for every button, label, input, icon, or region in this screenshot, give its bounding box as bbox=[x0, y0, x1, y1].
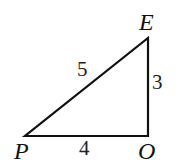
vertex-label-P: P bbox=[13, 138, 29, 164]
vertex-label-E: E bbox=[138, 9, 154, 35]
side-label-PE: 5 bbox=[77, 57, 88, 81]
side-label-PO: 4 bbox=[79, 136, 90, 160]
triangle-diagram: E P O 5 3 4 bbox=[0, 0, 178, 167]
triangle-PEO bbox=[25, 38, 148, 136]
vertex-label-O: O bbox=[138, 138, 155, 164]
side-label-EO: 3 bbox=[152, 70, 163, 94]
